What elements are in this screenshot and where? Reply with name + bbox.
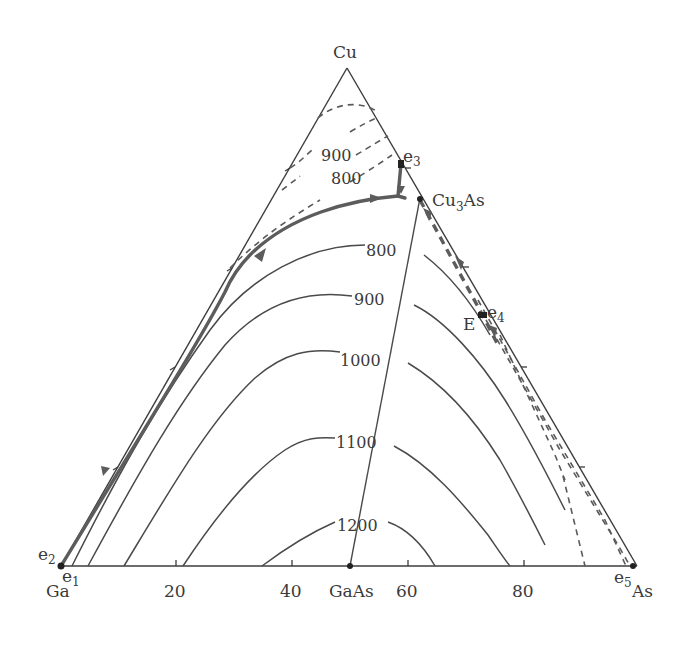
- isotherm-1100-right: [394, 446, 510, 566]
- isotherm-900-left: [88, 294, 352, 566]
- point-cu3as: [417, 196, 423, 202]
- isotherm-1200-left: [262, 522, 335, 566]
- label-e1: e1: [62, 566, 80, 589]
- edge-cu-ga: [61, 68, 347, 566]
- arrow-right-icon: [370, 194, 382, 203]
- label-e3: e3: [403, 146, 421, 169]
- compound-label-gaas: GaAs: [329, 581, 374, 601]
- point-e5: [630, 563, 636, 569]
- label-e2: e2: [38, 544, 56, 567]
- arrow-down-left-icon: [101, 466, 110, 476]
- isotherm-900-right: [414, 305, 565, 510]
- isotherm-1200-right: [388, 522, 435, 566]
- point-e4-E: [478, 312, 487, 318]
- valley-cu3as-to-e: [420, 200, 498, 345]
- isotherm-label-dashed-900: 900: [321, 146, 352, 165]
- tick-label-80: 80: [512, 581, 534, 601]
- label-E: E: [463, 314, 475, 334]
- isotherm-1000-left: [124, 351, 340, 566]
- tick-label-20: 20: [164, 581, 186, 601]
- label-e5: e5: [614, 567, 632, 590]
- isotherm-label-800: 800: [366, 241, 397, 260]
- isotherm-label-1000: 1000: [340, 351, 381, 370]
- vertex-label-as: As: [631, 581, 653, 601]
- ternary-phase-diagram: Cu Ga As GaAs Cu3As 20 40 60 80 e2 e1 e3…: [0, 0, 682, 670]
- valley-ternary-to-e2: [61, 196, 398, 566]
- solid-isotherms: [72, 245, 565, 566]
- point-gaas: [347, 563, 353, 569]
- tick-label-40: 40: [280, 581, 302, 601]
- isotherm-label-dashed-800: 800: [331, 169, 362, 188]
- univariant-lines: [61, 164, 498, 566]
- compound-label-cu3as: Cu3As: [432, 190, 485, 214]
- isotherm-label-1100: 1100: [336, 433, 377, 452]
- isotherm-label-900: 900: [354, 290, 385, 309]
- isotherm-1100-left: [183, 438, 335, 566]
- label-e4: e4: [487, 302, 505, 325]
- isotherm-label-1200: 1200: [337, 516, 378, 535]
- triangle-frame: [61, 68, 637, 566]
- tick-label-60: 60: [396, 581, 418, 601]
- vertex-label-cu: Cu: [333, 42, 357, 62]
- isotherm-1000-right: [408, 363, 545, 545]
- dashed-lines-as-field: [478, 300, 630, 566]
